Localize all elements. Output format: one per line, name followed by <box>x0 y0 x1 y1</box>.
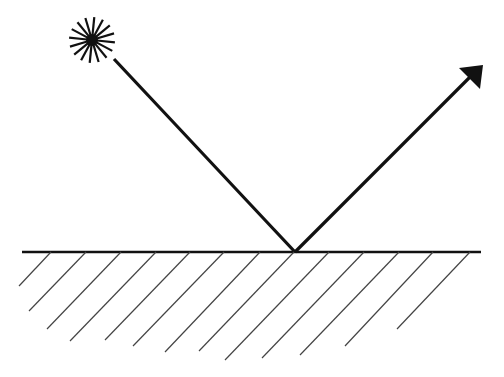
reflection-diagram <box>0 0 504 377</box>
reflected-ray <box>295 75 472 252</box>
hatch-line <box>133 252 224 346</box>
incident-ray <box>114 59 295 252</box>
hatch-line <box>70 252 156 341</box>
hatch-line <box>19 252 51 286</box>
hatch-line <box>397 252 470 329</box>
hatch-line <box>225 252 329 360</box>
hatch-line <box>29 252 86 311</box>
sun-burst-icon <box>69 17 115 63</box>
surface-hatching <box>19 252 470 360</box>
hatch-line <box>105 252 190 340</box>
hatch-line <box>345 252 433 346</box>
hatch-line <box>47 252 121 329</box>
